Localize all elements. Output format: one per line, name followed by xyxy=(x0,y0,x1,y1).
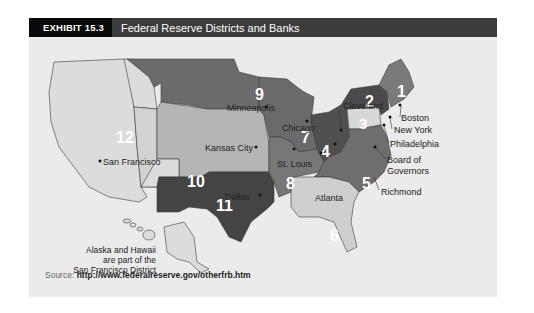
source-url[interactable]: http://www.federalreserve.gov/otherfrb.h… xyxy=(77,270,251,280)
alaska-region xyxy=(164,222,209,273)
svg-text:4: 4 xyxy=(321,143,330,160)
svg-text:St. Louis: St. Louis xyxy=(277,159,313,169)
svg-text:8: 8 xyxy=(286,175,295,192)
us-fed-districts-map: 1 2 3 4 5 6 7 8 9 10 11 12 xyxy=(29,37,497,277)
svg-text:Alaska and Hawaii: Alaska and Hawaii xyxy=(86,245,156,255)
svg-text:Richmond: Richmond xyxy=(381,187,422,197)
svg-text:6: 6 xyxy=(330,227,339,244)
svg-text:Dallas: Dallas xyxy=(225,192,251,202)
svg-text:Atlanta: Atlanta xyxy=(315,193,343,203)
svg-text:Boston: Boston xyxy=(401,113,429,123)
svg-text:Philadelphia: Philadelphia xyxy=(390,139,439,149)
district-6-region xyxy=(291,177,359,252)
exhibit-label: EXHIBIT 15.3 xyxy=(29,18,112,37)
svg-text:12: 12 xyxy=(116,129,134,146)
svg-text:New York: New York xyxy=(394,125,433,135)
svg-text:10: 10 xyxy=(187,173,205,190)
source-note: Source: http://www.federalreserve.gov/ot… xyxy=(45,270,251,280)
svg-text:5: 5 xyxy=(362,175,371,192)
svg-text:San Francisco: San Francisco xyxy=(103,157,161,167)
svg-text:Board of: Board of xyxy=(387,155,422,165)
svg-text:1: 1 xyxy=(397,83,406,100)
svg-text:Governors: Governors xyxy=(387,166,430,176)
hawaii-region xyxy=(123,219,155,240)
svg-text:Kansas City: Kansas City xyxy=(205,143,254,153)
source-label: Source: xyxy=(45,270,74,280)
svg-text:are part of the: are part of the xyxy=(103,255,156,265)
exhibit-header: EXHIBIT 15.3 Federal Reserve Districts a… xyxy=(29,18,497,37)
svg-text:Chicago: Chicago xyxy=(282,123,315,133)
svg-text:9: 9 xyxy=(255,86,264,103)
svg-text:Minneapolis: Minneapolis xyxy=(227,103,276,113)
svg-text:3: 3 xyxy=(359,115,367,132)
exhibit-title: Federal Reserve Districts and Banks xyxy=(112,22,300,34)
svg-text:Cleveland: Cleveland xyxy=(343,101,383,111)
exhibit-panel: EXHIBIT 15.3 Federal Reserve Districts a… xyxy=(29,18,497,297)
